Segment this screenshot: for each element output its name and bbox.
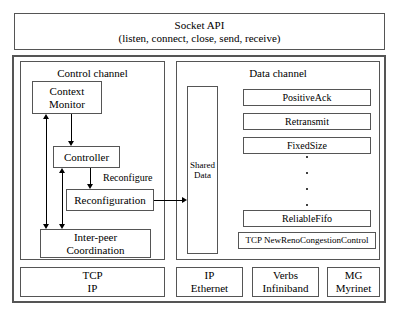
architecture-diagram: Socket API (listen, connect, close, send…	[0, 0, 398, 321]
data-channel-title: Data channel	[249, 67, 307, 80]
transport-tcp-ip-label-1: TCP	[82, 269, 102, 282]
reconfiguration-node: Reconfiguration	[66, 189, 154, 211]
link-interpeer-controller-head-up	[59, 168, 65, 173]
module-reliablefifo-label: ReliableFifo	[282, 213, 332, 225]
context-monitor-label-2: Monitor	[49, 98, 85, 111]
ellipsis-dot	[306, 188, 308, 190]
module-positiveack-label: PositiveAck	[283, 92, 332, 104]
controller-label: Controller	[64, 151, 109, 164]
arrow-context-monitor-to-controller-head	[68, 141, 74, 146]
inter-peer-label-1: Inter-peer	[74, 231, 117, 244]
module-fixedsize: FixedSize	[243, 137, 371, 154]
inter-peer-label-2: Coordination	[66, 244, 124, 257]
controller-node: Controller	[53, 146, 120, 168]
link-interpeer-controller-line	[62, 173, 63, 224]
link-interpeer-controller-head-down	[59, 224, 65, 229]
reconfigure-edge-label: Reconfigure	[103, 172, 152, 183]
module-tcp-newreno-congestion-control: TCP NewRenoCongestionControl	[238, 232, 376, 249]
context-monitor-node: Context Monitor	[32, 81, 102, 114]
transport-tcp-ip-label-2: IP	[88, 282, 98, 295]
socket-api-calls: (listen, connect, close, send, receive)	[119, 32, 281, 45]
transport-mg-myrinet-label-1: MG	[345, 269, 363, 282]
transport-mg-myrinet: MG Myrinet	[327, 267, 380, 297]
arrow-context-monitor-to-controller-line	[71, 114, 72, 141]
module-tcp-newreno-label: TCP NewRenoCongestionControl	[246, 235, 369, 245]
transport-mg-myrinet-label-2: Myrinet	[336, 282, 371, 295]
link-interpeer-contextmonitor-head-up	[43, 114, 49, 119]
context-monitor-label-1: Context	[50, 85, 85, 98]
socket-api-box: Socket API (listen, connect, close, send…	[14, 13, 385, 50]
transport-ip-ethernet-label-2: Ethernet	[191, 282, 228, 295]
shared-data-box: Shared Data	[187, 86, 218, 254]
module-positiveack: PositiveAck	[243, 89, 371, 106]
link-interpeer-contextmonitor-head-down	[43, 224, 49, 229]
transport-ip-ethernet-label-1: IP	[205, 269, 215, 282]
shared-data-label-2: Data	[194, 170, 211, 180]
module-ellipsis	[303, 156, 311, 206]
module-retransmit: Retransmit	[243, 113, 371, 130]
ellipsis-dot	[306, 172, 308, 174]
reconfiguration-label: Reconfiguration	[74, 194, 145, 207]
transport-ip-ethernet: IP Ethernet	[176, 267, 243, 297]
arrow-reconfigure-line	[154, 200, 182, 201]
transport-verbs-infiniband: Verbs Infiniband	[252, 267, 319, 297]
ellipsis-dot	[306, 156, 308, 158]
inter-peer-coordination-node: Inter-peer Coordination	[40, 229, 151, 258]
link-interpeer-contextmonitor-line	[46, 119, 47, 224]
module-reliablefifo: ReliableFifo	[243, 210, 371, 227]
shared-data-label-1: Shared	[190, 160, 215, 170]
arrow-controller-to-reconfiguration-line	[90, 168, 91, 184]
transport-verbs-infiniband-label-1: Verbs	[273, 269, 298, 282]
ellipsis-dot	[306, 204, 308, 206]
control-channel-title: Control channel	[57, 67, 128, 80]
module-fixedsize-label: FixedSize	[287, 140, 327, 152]
socket-api-title: Socket API	[175, 19, 225, 32]
arrow-controller-to-reconfiguration-head	[87, 184, 93, 189]
module-retransmit-label: Retransmit	[285, 116, 329, 128]
transport-tcp-ip: TCP IP	[20, 267, 165, 297]
transport-verbs-infiniband-label-2: Infiniband	[263, 282, 309, 295]
